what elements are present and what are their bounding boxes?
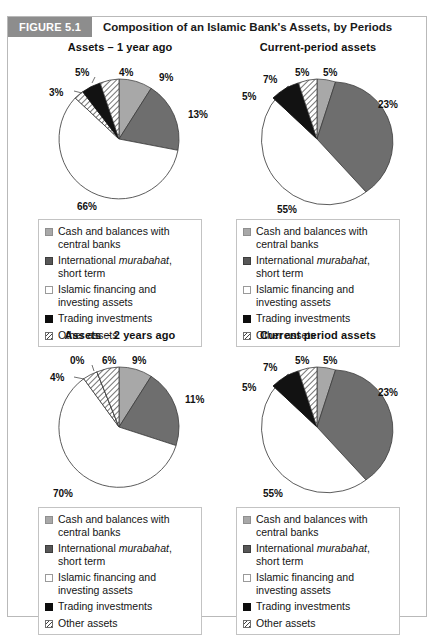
pie-data-label-0: 9% (132, 355, 147, 366)
dark-gray-square-icon (45, 545, 53, 553)
legend-item: Cash and balances with central banks (45, 225, 196, 250)
pie-chart-assets-2-years-ago: 9% 11% 70% 4% 0% 6% (22, 343, 218, 503)
pie-svg: 9% 11% 70% 4% 0% 6% (22, 343, 218, 503)
hatched-square-icon (243, 620, 251, 628)
pie-data-label-1: 11% (185, 394, 205, 405)
legend-item: Trading investments (243, 600, 394, 613)
pie-data-label-1: 23% (378, 387, 398, 398)
dark-gray-square-icon (243, 545, 251, 553)
legend-label-pre: International (58, 254, 119, 266)
legend-item: Trading investments (243, 312, 394, 325)
white-square-icon (243, 574, 251, 582)
pie-data-label-2: 55% (277, 204, 297, 215)
pie-data-label-2: 66% (77, 201, 97, 212)
figure-title: Composition of an Islamic Bank's Assets,… (103, 17, 392, 37)
legend-label-pre: International (58, 542, 119, 554)
light-gray-square-icon (243, 228, 251, 236)
legend-item: Other assets (45, 617, 196, 630)
legend-item: Other assets (243, 617, 394, 630)
legend-item-label: Other assets (256, 617, 316, 630)
white-square-icon (45, 574, 53, 582)
light-gray-square-icon (45, 516, 53, 524)
legend-item-label: International murabahat, short term (256, 542, 394, 567)
chart-title: Current-period assets (220, 41, 416, 53)
chart-panel-current-period-assets-top: Current-period assets (220, 41, 416, 329)
pie-data-label-2: 55% (263, 488, 283, 499)
pie-svg: 5% 23% 55% 5% 7% 5% (220, 55, 416, 215)
pie-chart-current-period-assets-top: 5% 23% 55% 5% 7% 5% (220, 55, 416, 215)
chart-legend: Cash and balances with central banks Int… (236, 507, 400, 635)
pie-slices (59, 79, 179, 199)
legend-label-pre: International (256, 542, 317, 554)
legend-label-emphasis: murabahat (119, 254, 169, 266)
chart-title: Assets – 2 years ago (22, 329, 218, 341)
legend-item-label: International murabahat, short term (256, 254, 394, 279)
black-square-icon (45, 603, 53, 611)
legend-item-label: Trading investments (58, 600, 152, 613)
pie-data-label-0: 5% (323, 355, 338, 366)
pie-data-label-3: 5% (242, 382, 257, 393)
black-square-icon (243, 315, 251, 323)
figure-header: FIGURE 5.1 Composition of an Islamic Ban… (8, 17, 426, 37)
legend-item: Islamic financing and investing assets (45, 283, 196, 308)
legend-label-emphasis: murabahat (119, 542, 169, 554)
chart-title: Current period assets (220, 329, 416, 341)
legend-label-emphasis: murabahat (317, 542, 367, 554)
legend-item: Islamic financing and investing assets (243, 283, 394, 308)
legend-item-label: International murabahat, short term (58, 254, 196, 279)
pie-data-label-3: 5% (242, 91, 257, 102)
chart-panel-current-period-assets-bottom: Current period assets (220, 329, 416, 617)
legend-item: Trading investments (45, 312, 196, 325)
legend-item-label: Cash and balances with central banks (256, 513, 394, 538)
legend-item: International murabahat, short term (45, 542, 196, 567)
pie-svg: 9% 13% 66% 3% 5% 4% (22, 55, 218, 215)
chart-legend: Cash and balances with central banks Int… (38, 219, 202, 347)
legend-item: International murabahat, short term (45, 254, 196, 279)
light-gray-square-icon (45, 228, 53, 236)
chart-panel-assets-1-year-ago: Assets – 1 year ago (22, 41, 218, 329)
chart-legend: Cash and balances with central banks Int… (38, 507, 202, 635)
pie-data-label-5: 6% (102, 355, 117, 366)
light-gray-square-icon (243, 516, 251, 524)
legend-item-label: Trading investments (256, 312, 350, 325)
pie-data-label-2: 70% (53, 488, 73, 499)
legend-label-pre: International (256, 254, 317, 266)
pie-data-label-0: 9% (159, 72, 174, 83)
black-square-icon (243, 603, 251, 611)
chart-legend: Cash and balances with central banks Int… (236, 219, 400, 347)
white-square-icon (45, 286, 53, 294)
white-square-icon (243, 286, 251, 294)
legend-item-label: Trading investments (58, 312, 152, 325)
legend-item: International murabahat, short term (243, 542, 394, 567)
legend-item-label: Cash and balances with central banks (256, 225, 394, 250)
legend-item: Cash and balances with central banks (45, 513, 196, 538)
pie-data-label-5: 4% (119, 67, 134, 78)
legend-item-label: Islamic financing and investing assets (256, 571, 394, 596)
legend-item: Islamic financing and investing assets (45, 571, 196, 596)
chart-panel-grid: Assets – 1 year ago (8, 41, 426, 617)
pie-data-label-4: 5% (75, 67, 90, 78)
pie-svg: 5% 23% 55% 5% 7% 5% (220, 343, 416, 503)
dark-gray-square-icon (45, 257, 53, 265)
pie-chart-current-period-assets-bottom: 5% 23% 55% 5% 7% 5% (220, 343, 416, 503)
legend-item-label: Islamic financing and investing assets (58, 571, 196, 596)
dark-gray-square-icon (243, 257, 251, 265)
legend-item-label: International murabahat, short term (58, 542, 196, 567)
chart-title: Assets – 1 year ago (22, 41, 218, 53)
legend-item-label: Islamic financing and investing assets (58, 283, 196, 308)
pie-data-label-3: 4% (50, 372, 65, 383)
legend-item-label: Cash and balances with central banks (58, 225, 196, 250)
figure-number-badge: FIGURE 5.1 (8, 17, 92, 37)
hatched-square-icon (45, 620, 53, 628)
legend-item-label: Islamic financing and investing assets (256, 283, 394, 308)
pie-chart-assets-1-year-ago: 9% 13% 66% 3% 5% 4% (22, 55, 218, 215)
legend-label-emphasis: murabahat (317, 254, 367, 266)
figure-frame: FIGURE 5.1 Composition of an Islamic Ban… (7, 16, 427, 617)
legend-item: Trading investments (45, 600, 196, 613)
legend-item: Cash and balances with central banks (243, 513, 394, 538)
legend-item: International murabahat, short term (243, 254, 394, 279)
pie-data-label-1: 13% (188, 109, 208, 120)
legend-item-label: Other assets (58, 617, 118, 630)
pie-slices (261, 367, 392, 493)
pie-data-label-3: 3% (49, 87, 64, 98)
